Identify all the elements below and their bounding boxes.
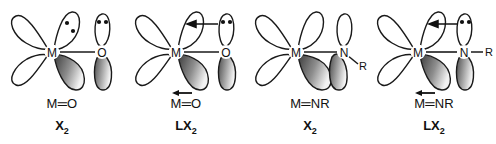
metal-upper-right-lobe (178, 12, 204, 49)
orbital-diagram-mo-lx2: M O (124, 0, 248, 96)
panel-formula: M═NR (372, 96, 496, 111)
lone-pair-dot (97, 20, 101, 24)
orbital-diagram-mnr-x2: M N R (248, 0, 372, 96)
panel-mnr-x2: M N R M═NR X2 (248, 0, 372, 144)
lone-pair-dot (228, 20, 232, 24)
lone-pair-dot (65, 21, 69, 25)
ligand-lower-lobe (95, 55, 112, 90)
ligand-upper-lobe (457, 14, 472, 46)
substituent-label: R (485, 46, 493, 58)
class-code-subscript: 2 (440, 126, 445, 136)
metal-upper-left-lobe (11, 16, 48, 50)
panel-class-code: X2 (0, 118, 124, 136)
metal-atom-label: M (47, 46, 57, 60)
ligand-upper-lobe (95, 14, 110, 46)
metal-atom-label: M (171, 46, 181, 60)
lone-pair-dot (221, 20, 225, 24)
class-code-text: LX (423, 118, 440, 133)
class-code-text: X (55, 118, 64, 133)
panel-class-code: LX2 (124, 118, 248, 136)
formula-donation-arrow (414, 88, 436, 97)
metal-atom-label: M (291, 46, 301, 60)
orbital-diagram-mo-x2: M O (0, 0, 124, 96)
metal-upper-left-lobe (135, 16, 172, 50)
ligand-atom-label: O (97, 46, 106, 60)
metal-lower-left-lobe (256, 55, 292, 86)
lone-pair-dot (71, 29, 75, 33)
orbital-bonding-figure: M O M═O X2 (0, 0, 496, 144)
lone-pair-dot (467, 20, 471, 24)
panel-formula: M═NR (248, 96, 372, 111)
metal-upper-right-lobe (54, 12, 80, 49)
formula-text: M═O (171, 96, 202, 111)
ligand-atom-label: N (340, 46, 349, 60)
class-code-subscript: 2 (192, 126, 197, 136)
panel-mo-x2: M O M═O X2 (0, 0, 124, 144)
metal-atom-label: M (413, 46, 423, 60)
panel-formula: M═O (0, 96, 124, 111)
ligand-atom-label: N (460, 46, 469, 60)
panel-mo-lx2: M O M═O LX2 (124, 0, 248, 144)
metal-lower-right-lobe (420, 55, 450, 90)
formula-text: M═NR (290, 96, 330, 111)
metal-lower-left-lobe (136, 55, 172, 86)
class-code-text: X (303, 118, 312, 133)
ligand-lower-lobe (219, 55, 236, 90)
class-code-text: LX (175, 118, 192, 133)
metal-lower-right-lobe (54, 55, 84, 90)
ligand-lower-lobe (457, 55, 474, 90)
class-code-subscript: 2 (64, 126, 69, 136)
panel-formula: M═O (124, 96, 248, 111)
panel-mnr-lx2: M N R M═NR LX2 (372, 0, 496, 144)
metal-upper-left-lobe (377, 16, 414, 50)
ligand-atom-label: O (221, 46, 230, 60)
metal-lower-left-lobe (378, 55, 414, 86)
ligand-upper-lobe (219, 14, 234, 46)
panel-class-code: LX2 (372, 118, 496, 136)
metal-lower-right-lobe (178, 55, 208, 90)
metal-upper-right-lobe (420, 12, 446, 49)
ligand-upper-lobe (337, 14, 352, 46)
formula-text: M═NR (414, 96, 454, 111)
panel-class-code: X2 (248, 118, 372, 136)
metal-lower-left-lobe (12, 55, 48, 86)
lone-pair-dot (104, 20, 108, 24)
class-code-subscript: 2 (312, 126, 317, 136)
metal-lower-right-lobe (298, 55, 331, 90)
orbital-diagram-mnr-lx2: M N R (372, 0, 496, 96)
metal-upper-right-lobe (298, 12, 324, 49)
substituent-label: R (359, 60, 367, 72)
formula-text: M═O (47, 96, 78, 111)
formula-donation-arrow (171, 88, 193, 97)
metal-upper-left-lobe (255, 16, 292, 50)
lone-pair-dot (460, 20, 464, 24)
